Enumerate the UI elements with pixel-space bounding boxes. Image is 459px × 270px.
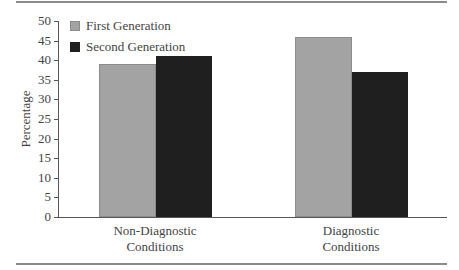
- y-axis: [58, 21, 59, 218]
- y-tick-label: 40: [21, 53, 51, 66]
- bar-second-generation-diagnostic: [352, 72, 409, 217]
- y-tick-label: 10: [21, 171, 51, 184]
- bar-first-generation-diagnostic: [295, 37, 352, 217]
- legend-item-first-generation: First Generation: [70, 18, 171, 34]
- legend-swatch-first-generation: [70, 21, 80, 31]
- y-tick-label: 30: [21, 92, 51, 105]
- legend-swatch-second-generation: [70, 42, 80, 52]
- y-tick-label: 15: [21, 151, 51, 164]
- bar-first-generation-non-diagnostic: [99, 64, 156, 217]
- y-tick-label: 0: [21, 210, 51, 223]
- y-tick-label: 50: [21, 14, 51, 27]
- category-label-diagnostic: Diagnostic Conditions: [281, 223, 421, 255]
- bottom-rule: [16, 263, 447, 265]
- y-tick-label: 25: [21, 112, 51, 125]
- x-axis: [58, 217, 447, 218]
- top-rule: [16, 1, 447, 3]
- category-label-non-diagnostic: Non-Diagnostic Conditions: [85, 223, 225, 255]
- bar-second-generation-non-diagnostic: [156, 56, 213, 217]
- legend-item-second-generation: Second Generation: [70, 39, 185, 55]
- y-tick-label: 35: [21, 73, 51, 86]
- y-tick-label: 20: [21, 132, 51, 145]
- y-tick-label: 45: [21, 34, 51, 47]
- y-tick-label: 5: [21, 190, 51, 203]
